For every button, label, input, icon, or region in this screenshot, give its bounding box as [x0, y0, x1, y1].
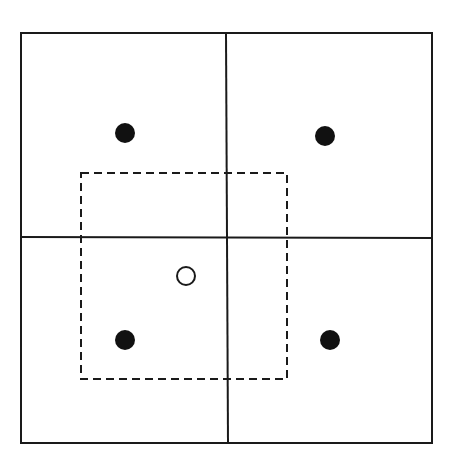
filled-point	[320, 330, 340, 350]
grid-diagram	[0, 0, 452, 466]
horizontal-divider	[21, 237, 432, 238]
hollow-query-point	[177, 267, 195, 285]
filled-point	[315, 126, 335, 146]
filled-point	[115, 123, 135, 143]
filled-point	[115, 330, 135, 350]
